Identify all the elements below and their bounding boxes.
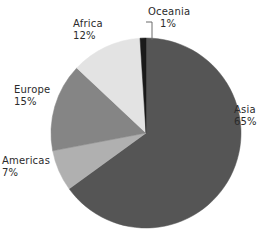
pie-label-oceania-value: 1% (160, 18, 190, 30)
pie-label-americas: Americas 7% (2, 155, 50, 179)
pie-label-asia: Asia 65% (234, 104, 257, 128)
pie-label-oceania: Oceania 1% (148, 6, 190, 30)
pie-label-europe-value: 15% (14, 96, 50, 108)
pie-label-asia-value: 65% (234, 116, 257, 128)
pie-label-americas-name: Americas (2, 155, 50, 167)
pie-label-africa-value: 12% (73, 30, 103, 42)
pie-label-americas-value: 7% (2, 167, 50, 179)
pie-label-europe: Europe 15% (14, 84, 50, 108)
pie-slices (51, 38, 241, 228)
pie-label-africa-name: Africa (73, 18, 103, 30)
pie-chart-figure: Oceania 1% Africa 12% Europe 15% America… (0, 0, 277, 243)
pie-label-asia-name: Asia (234, 104, 257, 116)
pie-label-africa: Africa 12% (73, 18, 103, 42)
pie-label-oceania-name: Oceania (148, 6, 190, 18)
pie-label-europe-name: Europe (14, 84, 50, 96)
